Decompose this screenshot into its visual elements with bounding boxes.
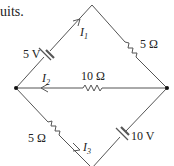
wire-top-right-lower xyxy=(136,57,167,88)
wire-left-bottom-upper xyxy=(16,88,48,122)
node-left xyxy=(14,86,18,90)
circuit-diagram: 5 V 5 Ω 10 Ω 5 Ω 10 V I1 I2 I3 xyxy=(0,0,174,166)
wire-top-right-upper xyxy=(92,5,125,42)
resistor-5ohm-bottom xyxy=(48,121,60,135)
label-5v: 5 V xyxy=(23,47,41,61)
label-10ohm: 10 Ω xyxy=(81,69,105,83)
label-i2: I2 xyxy=(41,71,50,87)
wire-left-top-upper xyxy=(50,5,92,51)
wire-left-top-lower xyxy=(16,57,44,88)
node-right xyxy=(165,86,169,90)
label-i3: I3 xyxy=(82,140,91,156)
wire-bottom-right-upper xyxy=(126,88,167,131)
label-i1: I1 xyxy=(79,25,88,41)
battery-10v-long-plate xyxy=(116,128,128,140)
label-5ohm-top: 5 Ω xyxy=(140,37,158,51)
resistor-5ohm-top xyxy=(125,42,137,57)
label-10v: 10 V xyxy=(131,129,155,143)
label-5ohm-bottom: 5 Ω xyxy=(28,131,46,145)
resistor-10ohm xyxy=(83,85,102,91)
wire-bottom-right-lower xyxy=(92,137,120,166)
